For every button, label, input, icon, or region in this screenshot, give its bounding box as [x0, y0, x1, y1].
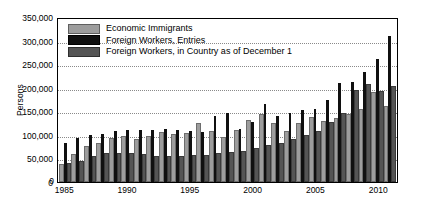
legend-label: Economic Immigrants	[106, 23, 193, 34]
x-axis-tick-labels: 198519901995200020052010	[57, 185, 398, 203]
bar-chart: Persons 050,000100,000150,000200,000250,…	[0, 0, 422, 217]
bar-group	[334, 19, 346, 182]
bar-group	[371, 19, 383, 182]
x-axis-tick-label: 2005	[306, 185, 325, 195]
bar-group	[321, 19, 333, 182]
y-axis-zero-label: 0	[46, 176, 54, 186]
legend-label: Foreign Workers, Entries	[106, 35, 205, 46]
bar-group	[384, 19, 396, 182]
bar-group	[296, 19, 308, 182]
y-axis-tick-label: 200,000	[22, 84, 53, 94]
legend-swatch	[68, 47, 100, 57]
legend-item: Economic Immigrants	[68, 23, 292, 35]
y-axis-tick-label: 50,000	[27, 154, 53, 164]
bar-group	[309, 19, 321, 182]
y-axis-tick-label: 100,000	[22, 131, 53, 141]
y-axis-tick-label: 350,000	[22, 13, 53, 23]
x-axis-tick-label: 2010	[369, 185, 388, 195]
bar	[391, 86, 396, 182]
y-axis-tick-label: 150,000	[22, 107, 53, 117]
chart-legend: Economic ImmigrantsForeign Workers, Entr…	[66, 22, 294, 59]
x-axis-tick-label: 1985	[55, 185, 74, 195]
bar-group	[359, 19, 371, 182]
x-axis-tick-label: 1995	[180, 185, 199, 195]
legend-swatch	[68, 35, 100, 45]
y-axis-tick-label: 300,000	[22, 37, 53, 47]
x-axis-tick-label: 2000	[243, 185, 262, 195]
bar-group	[346, 19, 358, 182]
x-axis-tick-label: 1990	[118, 185, 137, 195]
legend-swatch	[68, 24, 100, 34]
legend-label: Foreign Workers, in Country as of Decemb…	[106, 46, 292, 57]
legend-item: Foreign Workers, in Country as of Decemb…	[68, 46, 292, 58]
legend-item: Foreign Workers, Entries	[68, 35, 292, 47]
y-axis-tick-label: 250,000	[22, 60, 53, 70]
